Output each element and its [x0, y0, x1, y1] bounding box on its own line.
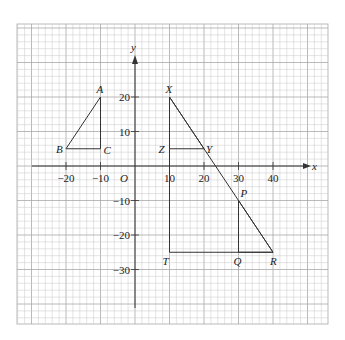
x-tick-label: 30 [233, 172, 245, 184]
x-tick-label: 20 [199, 172, 211, 184]
point-label-a: A [96, 83, 104, 95]
y-tick-label: −10 [113, 195, 131, 207]
point-label-p: P [240, 187, 248, 199]
point-label-q: Q [234, 255, 242, 267]
origin-label: O [120, 172, 128, 184]
x-tick-label: −10 [92, 172, 110, 184]
y-tick-label: −30 [113, 264, 131, 276]
point-label-x: X [165, 83, 174, 95]
x-tick-label: 40 [268, 172, 280, 184]
y-tick-label: 10 [119, 126, 131, 138]
point-label-z: Z [159, 143, 166, 155]
point-label-c: C [104, 144, 112, 156]
point-label-b: B [56, 143, 63, 155]
y-tick-label: −20 [113, 229, 131, 241]
y-axis-label: y [130, 41, 136, 53]
x-tick-label: −20 [57, 172, 75, 184]
point-label-t: T [163, 255, 170, 267]
coordinate-diagram: x y O −20−1010203040 2010−10−20−30 ABCXY… [0, 0, 345, 340]
x-axis-label: x [311, 160, 317, 172]
y-tick-label: 20 [119, 91, 131, 103]
point-label-r: R [269, 255, 277, 267]
